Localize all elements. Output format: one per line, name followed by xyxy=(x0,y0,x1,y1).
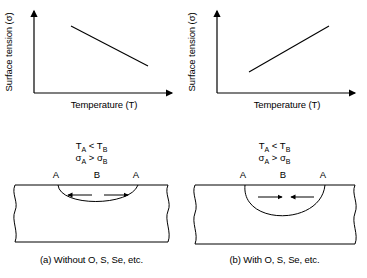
panel-with-surfactant: TA < TB σA > σB A B A (b) With O, S, Se,… xyxy=(183,130,366,278)
sigma-condition: σA > σB xyxy=(0,152,183,168)
panel-without-surfactant: TA < TB σA > σB A B A (a) Witho xyxy=(0,130,183,278)
panel-caption: (a) Without O, S, Se, etc. xyxy=(0,254,183,265)
data-line-positive-slope xyxy=(249,26,329,72)
point-label-b: B xyxy=(94,169,100,180)
x-axis-label: Temperature (T) xyxy=(217,99,357,110)
point-label-a-left: A xyxy=(240,169,246,180)
weld-cross-section-shallow xyxy=(0,180,183,254)
point-label-a-left: A xyxy=(53,169,59,180)
point-label-a-right: A xyxy=(133,169,139,180)
point-label-b: B xyxy=(280,169,286,180)
sigma-sub-b: B xyxy=(286,158,291,165)
chart-negative-slope-plot xyxy=(0,0,183,100)
figure-root: Surface tension (σ) Temperature (T) Surf… xyxy=(0,0,367,278)
plate-body xyxy=(15,185,168,242)
chart-negative-slope: Surface tension (σ) Temperature (T) xyxy=(0,0,183,122)
sigma-condition: σA > σB xyxy=(183,152,366,168)
temperature-relation: < T xyxy=(269,140,285,151)
point-label-a-right: A xyxy=(320,169,326,180)
panel-caption: (b) With O, S, Se, etc. xyxy=(183,254,366,265)
chart-positive-slope: Surface tension (σ) Temperature (T) xyxy=(183,0,366,122)
sigma-sub-b: B xyxy=(103,158,108,165)
plate-body xyxy=(195,185,355,244)
weld-cross-section-deep xyxy=(183,180,366,254)
x-axis-label: Temperature (T) xyxy=(34,99,174,110)
temperature-relation: < T xyxy=(86,140,102,151)
chart-positive-slope-plot xyxy=(183,0,366,100)
sigma-relation: > σ xyxy=(269,152,286,163)
data-line-negative-slope xyxy=(71,26,148,66)
sigma-relation: > σ xyxy=(86,152,103,163)
